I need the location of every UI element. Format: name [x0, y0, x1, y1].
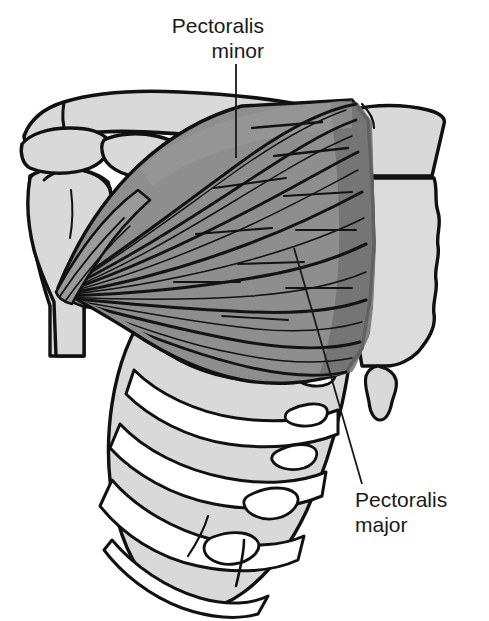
- label-pectoralis-minor: Pectoralis minor: [148, 13, 264, 63]
- label-pectoralis-minor-line2: minor: [148, 38, 264, 63]
- label-pectoralis-major-line2: major: [355, 512, 485, 537]
- anatomy-figure: Pectoralis minor Pectoralis major: [0, 0, 489, 621]
- label-pectoralis-major: Pectoralis major: [355, 487, 485, 537]
- label-pectoralis-major-line1: Pectoralis: [355, 487, 485, 512]
- label-pectoralis-minor-line1: Pectoralis: [148, 13, 264, 38]
